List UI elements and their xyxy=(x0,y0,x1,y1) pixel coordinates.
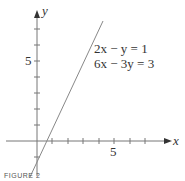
figure-caption: FIGURE 2 xyxy=(4,172,40,179)
y-tick-label-5: 5 xyxy=(25,53,32,69)
equation-1: 2x − y = 1 xyxy=(94,41,148,57)
y-axis-arrow-icon xyxy=(34,10,40,18)
line-2x-y-1 xyxy=(30,21,103,177)
y-axis-label: y xyxy=(42,3,48,19)
x-tick-label-5: 5 xyxy=(110,144,117,160)
x-axis-label: x xyxy=(173,133,179,149)
x-axis-arrow-icon xyxy=(164,138,172,144)
equation-2: 6x − 3y = 3 xyxy=(94,56,154,72)
chart-canvas xyxy=(0,0,185,181)
